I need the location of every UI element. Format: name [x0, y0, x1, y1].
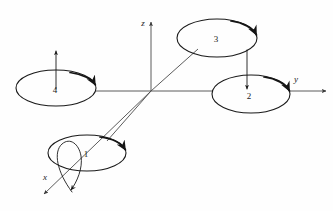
y-axis-label: y: [293, 74, 298, 84]
rotor-1-label: 1: [84, 149, 89, 159]
z-axis-label: z: [140, 18, 145, 28]
x-axis-label: x: [42, 172, 47, 182]
rotor-4-label: 4: [53, 85, 58, 95]
rotor-1-group: 1: [48, 135, 126, 171]
rotor-4-group: 4: [16, 51, 96, 106]
arm-x-upper: [151, 49, 198, 91]
rotor-3-spin-arrow: [231, 21, 257, 35]
rotor-2-label: 2: [247, 91, 252, 101]
arm-x-lower: [107, 91, 151, 141]
rotor-3-label: 3: [214, 34, 219, 44]
rotor-2-group: 2: [212, 50, 290, 113]
rotor-3-group: 3: [177, 19, 257, 57]
quadrotor-figure: Quadrotor rotor numbering and body coord…: [0, 0, 333, 211]
figure-canvas: 4 3 2 1 z y x: [0, 0, 333, 211]
rotor-2-spin-arrow: [264, 77, 290, 91]
